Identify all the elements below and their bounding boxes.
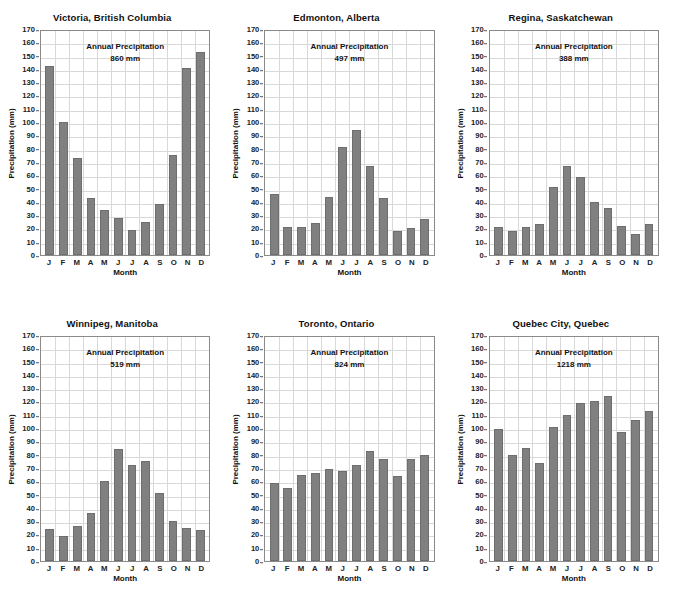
- y-axis-tick-label: 120: [471, 399, 484, 407]
- plot-area-wrapper: Precipitation (mm)0102030405060708090100…: [40, 30, 210, 256]
- bar-slot: [111, 337, 125, 561]
- bar-slot: [629, 31, 643, 255]
- y-axis-tick-label: 40: [251, 199, 259, 207]
- bar: [283, 227, 292, 255]
- x-axis-tick-label: A: [84, 564, 98, 573]
- y-axis-tick-label: 50: [251, 492, 259, 500]
- bar-slot: [153, 337, 167, 561]
- panel-title: Quebec City, Quebec: [449, 306, 673, 332]
- y-axis-tick-label: 100: [247, 425, 260, 433]
- y-axis-tick-label: 130: [247, 385, 260, 393]
- bar: [297, 475, 306, 561]
- y-axis-tick-label: 100: [22, 119, 35, 127]
- y-axis-tick-label: 80: [27, 452, 35, 460]
- bar: [141, 222, 150, 255]
- bar: [522, 227, 531, 255]
- x-axis-tick-label: O: [391, 258, 405, 267]
- x-axis-tick-label: M: [97, 564, 111, 573]
- y-axis-tick-label: 150: [22, 359, 35, 367]
- plot-area-wrapper: Precipitation (mm)0102030405060708090100…: [264, 30, 434, 256]
- y-axis-tick-label: 0: [31, 558, 35, 566]
- x-axis-tick-label: J: [574, 258, 588, 267]
- y-axis-tick-label: 150: [247, 53, 260, 61]
- y-axis-tick-label: 0: [479, 558, 483, 566]
- plot-area: Annual Precipitation860 mm: [40, 30, 210, 256]
- bar-slot: [505, 337, 519, 561]
- x-axis-tick-label: F: [505, 258, 519, 267]
- y-axis-tick-label: 90: [251, 439, 259, 447]
- bar-slot: [642, 337, 656, 561]
- y-axis-tick-label: 30: [475, 518, 483, 526]
- x-axis-tick-label: F: [280, 258, 294, 267]
- bar: [563, 166, 572, 255]
- y-axis-tick-label: 90: [27, 439, 35, 447]
- x-axis-ticks: JFMAMJJASOND: [264, 258, 434, 267]
- y-axis-tick-label: 140: [22, 372, 35, 380]
- chart-panel: Victoria, British ColumbiaPrecipitation …: [0, 0, 224, 306]
- y-axis-tick-label: 90: [27, 133, 35, 141]
- bar-slot: [377, 337, 391, 561]
- bar-slot: [57, 31, 71, 255]
- bar: [59, 536, 68, 561]
- y-axis-tick-label: 110: [247, 412, 259, 420]
- bar: [645, 224, 654, 255]
- plot-area: Annual Precipitation1218 mm: [489, 336, 659, 562]
- bar-slot: [587, 337, 601, 561]
- chart-panel: Regina, SaskatchewanPrecipitation (mm)01…: [449, 0, 673, 306]
- y-axis-tick-label: 80: [251, 452, 259, 460]
- y-axis-tick-label: 160: [247, 39, 260, 47]
- y-axis-tick-label: 60: [475, 172, 483, 180]
- bar: [631, 420, 640, 561]
- y-axis-tick-label: 70: [251, 465, 259, 473]
- panel-title: Regina, Saskatchewan: [449, 0, 673, 26]
- bar: [379, 198, 388, 255]
- y-axis-tick-label: 140: [471, 66, 484, 74]
- x-axis-tick-label: D: [194, 564, 208, 573]
- bar: [494, 429, 503, 561]
- x-axis-tick-label: J: [42, 258, 56, 267]
- bar-slot: [43, 337, 57, 561]
- y-axis-tick-label: 20: [251, 532, 259, 540]
- bar: [590, 202, 599, 255]
- x-axis-tick-label: M: [518, 258, 532, 267]
- bar-slot: [505, 31, 519, 255]
- plot-area-wrapper: Precipitation (mm)0102030405060708090100…: [489, 336, 659, 562]
- bar: [563, 415, 572, 561]
- bar: [366, 451, 375, 561]
- x-axis-ticks: JFMAMJJASOND: [264, 564, 434, 573]
- y-axis-tick-label: 70: [27, 159, 35, 167]
- bar-slot: [391, 31, 405, 255]
- y-axis-tick-label: 80: [475, 146, 483, 154]
- bar-slot: [267, 31, 281, 255]
- y-axis-tick-label: 50: [251, 186, 259, 194]
- bar-slot: [404, 31, 418, 255]
- bar: [196, 52, 205, 255]
- x-axis-tick-label: N: [629, 564, 643, 573]
- y-axis-tick-label: 40: [475, 505, 483, 513]
- y-axis-tick-label: 70: [475, 159, 483, 167]
- bar: [379, 459, 388, 561]
- bar: [128, 465, 137, 561]
- bar: [311, 223, 320, 255]
- y-axis-tick-label: 120: [22, 93, 35, 101]
- bar-slot: [84, 31, 98, 255]
- bar: [407, 228, 416, 255]
- y-axis-tick-label: 10: [475, 545, 483, 553]
- y-axis-ticks: 0102030405060708090100110120130140150160…: [6, 30, 38, 256]
- bar-slot: [267, 337, 281, 561]
- bar-slot: [98, 337, 112, 561]
- y-axis-tick-label: 170: [471, 332, 484, 340]
- x-axis-label: Month: [40, 574, 210, 583]
- x-axis-ticks: JFMAMJJASOND: [489, 564, 659, 573]
- y-axis-tick-label: 60: [27, 172, 35, 180]
- x-axis-tick-label: D: [419, 564, 433, 573]
- y-axis-tick-label: 160: [22, 39, 35, 47]
- y-axis-tick-label: 150: [471, 53, 484, 61]
- bar-slot: [363, 337, 377, 561]
- y-axis-tick-label: 30: [251, 518, 259, 526]
- y-axis-tick-label: 150: [247, 359, 260, 367]
- bar: [393, 231, 402, 255]
- bar-slot: [642, 31, 656, 255]
- y-axis-tick-label: 170: [22, 332, 35, 340]
- y-axis-tick-label: 170: [471, 26, 484, 34]
